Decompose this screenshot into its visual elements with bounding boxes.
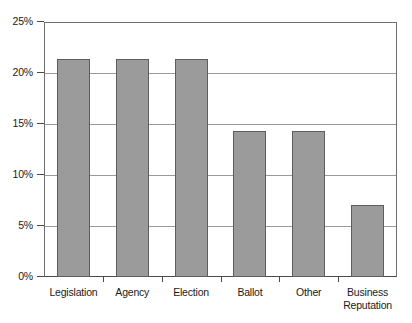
bar: [351, 205, 384, 277]
bar: [175, 59, 208, 277]
x-axis-tick-label: Other: [279, 286, 338, 299]
gridline: [45, 226, 396, 227]
x-axis-tick: [103, 277, 104, 282]
x-axis-tick: [338, 277, 339, 282]
y-axis-tick-label: 15%: [0, 118, 33, 129]
x-axis-tick-label: Ballot: [221, 286, 280, 299]
bar: [292, 131, 325, 277]
y-axis-tick: [37, 174, 44, 175]
bar: [116, 59, 149, 277]
x-axis-tick-label-line: Business: [338, 286, 397, 299]
y-axis-tick-label: 0%: [0, 271, 33, 282]
y-axis-tick: [37, 276, 44, 277]
x-axis-tick-label: BusinessReputation: [338, 286, 397, 311]
y-axis-tick-label: 10%: [0, 169, 33, 180]
gridline: [45, 73, 396, 74]
bar-chart: 0%5%10%15%20%25% LegislationAgencyElecti…: [0, 0, 412, 323]
x-axis-tick-label: Legislation: [44, 286, 103, 299]
x-axis-tick-label-line: Election: [162, 286, 221, 299]
x-axis-tick-label-line: Legislation: [44, 286, 103, 299]
bar: [57, 59, 90, 277]
plot-area: [44, 22, 397, 277]
bar: [233, 131, 266, 277]
x-axis-tick-label-line: Reputation: [338, 299, 397, 312]
x-axis-tick-label: Election: [162, 286, 221, 299]
y-axis-tick: [37, 123, 44, 124]
y-axis-tick-label: 25%: [0, 16, 33, 27]
y-axis-tick: [37, 72, 44, 73]
x-axis-tick: [221, 277, 222, 282]
y-axis-tick-label: 5%: [0, 220, 33, 231]
x-axis-tick-label-line: Agency: [103, 286, 162, 299]
x-axis-tick-label-line: Ballot: [221, 286, 280, 299]
y-axis-tick: [37, 21, 44, 22]
x-axis-tick: [279, 277, 280, 282]
x-axis-tick: [162, 277, 163, 282]
y-axis-tick: [37, 225, 44, 226]
x-axis-tick-label: Agency: [103, 286, 162, 299]
y-axis-tick-label: 20%: [0, 67, 33, 78]
gridline: [45, 175, 396, 176]
gridline: [45, 124, 396, 125]
x-axis-tick-label-line: Other: [279, 286, 338, 299]
